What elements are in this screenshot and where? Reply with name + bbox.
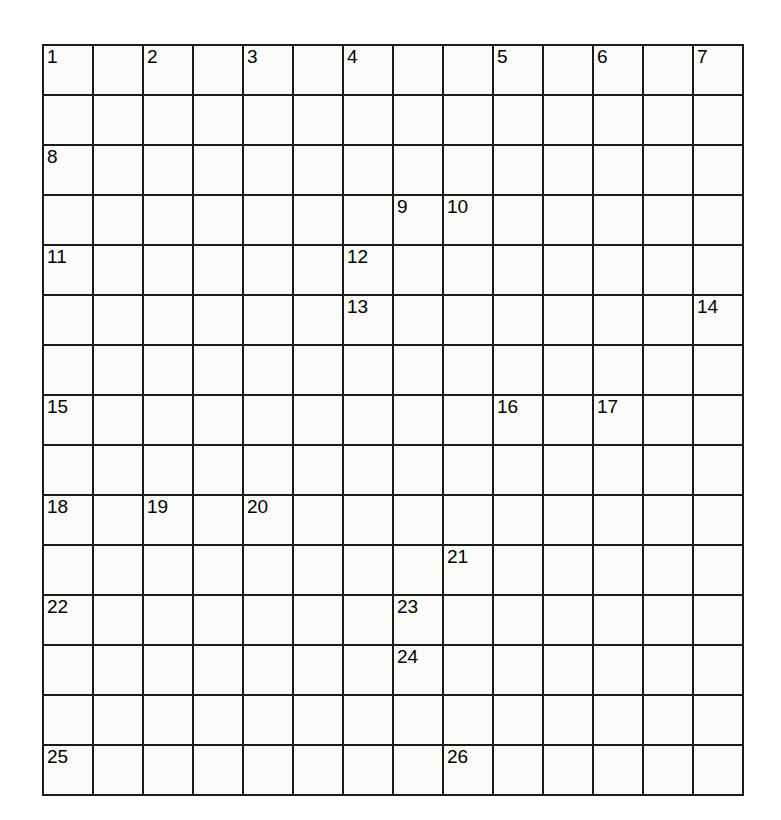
crossword-open-cell[interactable] — [693, 545, 743, 595]
crossword-open-cell[interactable] — [193, 745, 243, 795]
crossword-open-cell[interactable] — [243, 345, 293, 395]
crossword-open-cell[interactable]: 4 — [343, 45, 393, 95]
crossword-open-cell[interactable] — [293, 495, 343, 545]
crossword-open-cell[interactable] — [243, 745, 293, 795]
crossword-open-cell[interactable] — [343, 145, 393, 195]
crossword-open-cell[interactable] — [693, 345, 743, 395]
crossword-open-cell[interactable] — [43, 95, 93, 145]
crossword-open-cell[interactable] — [543, 195, 593, 245]
crossword-open-cell[interactable] — [693, 645, 743, 695]
crossword-open-cell[interactable] — [643, 445, 693, 495]
crossword-open-cell[interactable] — [493, 495, 543, 545]
crossword-open-cell[interactable] — [443, 345, 493, 395]
crossword-open-cell[interactable] — [693, 745, 743, 795]
crossword-open-cell[interactable] — [143, 145, 193, 195]
crossword-open-cell[interactable] — [443, 395, 493, 445]
crossword-open-cell[interactable] — [543, 745, 593, 795]
crossword-open-cell[interactable] — [493, 195, 543, 245]
crossword-open-cell[interactable]: 3 — [243, 45, 293, 95]
crossword-open-cell[interactable] — [543, 545, 593, 595]
crossword-open-cell[interactable] — [693, 145, 743, 195]
crossword-open-cell[interactable] — [143, 645, 193, 695]
crossword-open-cell[interactable] — [693, 495, 743, 545]
crossword-open-cell[interactable] — [143, 695, 193, 745]
crossword-open-cell[interactable] — [593, 95, 643, 145]
crossword-open-cell[interactable]: 11 — [43, 245, 93, 295]
crossword-open-cell[interactable] — [293, 395, 343, 445]
crossword-open-cell[interactable] — [143, 345, 193, 395]
crossword-open-cell[interactable]: 14 — [693, 295, 743, 345]
crossword-open-cell[interactable] — [143, 745, 193, 795]
crossword-open-cell[interactable] — [643, 495, 693, 545]
crossword-open-cell[interactable] — [193, 595, 243, 645]
crossword-open-cell[interactable] — [193, 245, 243, 295]
crossword-open-cell[interactable] — [243, 245, 293, 295]
crossword-open-cell[interactable] — [643, 195, 693, 245]
crossword-open-cell[interactable]: 22 — [43, 595, 93, 645]
crossword-open-cell[interactable]: 2 — [143, 45, 193, 95]
crossword-open-cell[interactable] — [43, 295, 93, 345]
crossword-open-cell[interactable] — [243, 295, 293, 345]
crossword-open-cell[interactable] — [243, 395, 293, 445]
crossword-open-cell[interactable] — [143, 195, 193, 245]
crossword-open-cell[interactable] — [143, 545, 193, 595]
crossword-open-cell[interactable]: 7 — [693, 45, 743, 95]
crossword-open-cell[interactable]: 8 — [43, 145, 93, 195]
crossword-open-cell[interactable] — [593, 545, 643, 595]
crossword-open-cell[interactable] — [693, 395, 743, 445]
crossword-open-cell[interactable] — [643, 645, 693, 695]
crossword-grid-container[interactable]: 1234567891011121314151617181920212223242… — [42, 44, 744, 796]
crossword-open-cell[interactable] — [593, 195, 643, 245]
crossword-open-cell[interactable] — [593, 145, 643, 195]
crossword-open-cell[interactable] — [493, 295, 543, 345]
crossword-open-cell[interactable] — [143, 245, 193, 295]
crossword-open-cell[interactable] — [143, 295, 193, 345]
crossword-open-cell[interactable] — [343, 445, 393, 495]
crossword-open-cell[interactable] — [643, 245, 693, 295]
crossword-open-cell[interactable] — [493, 745, 543, 795]
crossword-open-cell[interactable] — [93, 145, 143, 195]
crossword-open-cell[interactable] — [543, 445, 593, 495]
crossword-open-cell[interactable] — [393, 395, 443, 445]
crossword-open-cell[interactable] — [443, 295, 493, 345]
crossword-open-cell[interactable] — [343, 395, 393, 445]
crossword-open-cell[interactable] — [343, 545, 393, 595]
crossword-open-cell[interactable] — [393, 695, 443, 745]
crossword-open-cell[interactable] — [493, 145, 543, 195]
crossword-open-cell[interactable] — [43, 345, 93, 395]
crossword-open-cell[interactable] — [443, 495, 493, 545]
crossword-open-cell[interactable] — [493, 645, 543, 695]
crossword-open-cell[interactable] — [443, 45, 493, 95]
crossword-open-cell[interactable] — [693, 695, 743, 745]
crossword-open-cell[interactable] — [293, 745, 343, 795]
crossword-open-cell[interactable] — [93, 745, 143, 795]
crossword-open-cell[interactable]: 10 — [443, 195, 493, 245]
crossword-open-cell[interactable] — [193, 145, 243, 195]
crossword-open-cell[interactable]: 24 — [393, 645, 443, 695]
crossword-open-cell[interactable] — [543, 695, 593, 745]
crossword-open-cell[interactable] — [93, 245, 143, 295]
crossword-open-cell[interactable] — [643, 395, 693, 445]
crossword-open-cell[interactable] — [543, 595, 593, 645]
crossword-open-cell[interactable] — [643, 545, 693, 595]
crossword-open-cell[interactable] — [593, 645, 643, 695]
crossword-open-cell[interactable]: 18 — [43, 495, 93, 545]
crossword-open-cell[interactable]: 15 — [43, 395, 93, 445]
crossword-open-cell[interactable] — [643, 45, 693, 95]
crossword-open-cell[interactable] — [593, 745, 643, 795]
crossword-open-cell[interactable] — [93, 495, 143, 545]
crossword-open-cell[interactable] — [243, 645, 293, 695]
crossword-open-cell[interactable] — [593, 495, 643, 545]
crossword-open-cell[interactable] — [93, 595, 143, 645]
crossword-open-cell[interactable]: 5 — [493, 45, 543, 95]
crossword-open-cell[interactable] — [193, 395, 243, 445]
crossword-open-cell[interactable] — [543, 45, 593, 95]
crossword-open-cell[interactable] — [93, 395, 143, 445]
crossword-open-cell[interactable] — [243, 145, 293, 195]
crossword-open-cell[interactable] — [193, 45, 243, 95]
crossword-open-cell[interactable]: 21 — [443, 545, 493, 595]
crossword-open-cell[interactable] — [143, 95, 193, 145]
crossword-open-cell[interactable] — [43, 445, 93, 495]
crossword-open-cell[interactable] — [343, 595, 393, 645]
crossword-open-cell[interactable] — [243, 95, 293, 145]
